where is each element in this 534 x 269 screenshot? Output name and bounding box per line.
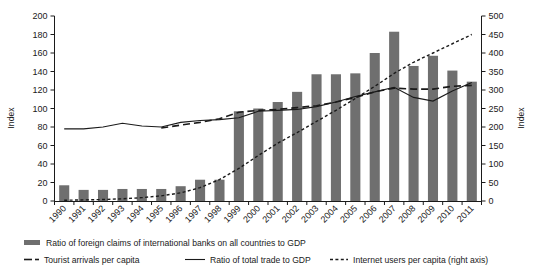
bar [137, 189, 147, 201]
left-axis-title-label: Index [6, 107, 16, 129]
bar [389, 32, 399, 201]
x-axis-year-label: 2001 [260, 203, 281, 224]
x-axis-year-label: 1998 [202, 203, 223, 224]
right-y-tick-label: 50 [489, 178, 499, 188]
bar [176, 186, 186, 201]
x-axis-year-label: 1991 [66, 203, 87, 224]
left-y-tick-label: 200 [32, 11, 47, 21]
x-axis-year-label: 2006 [357, 203, 378, 224]
chart-legend: Ratio of foreign claims of international… [24, 238, 488, 265]
combo-chart: Index Index 020406080100120140160180200 … [0, 0, 534, 269]
left-y-tick-label: 120 [32, 85, 47, 95]
x-axis-year-label: 2009 [416, 203, 437, 224]
legend-item-tourist-arrivals: Tourist arrivals per capita [44, 255, 140, 265]
x-axis-year-label: 2000 [241, 203, 262, 224]
bar-swatch-icon [24, 240, 40, 245]
bar [428, 56, 438, 201]
x-axis-year-label: 1992 [86, 203, 107, 224]
left-axis-title: Index [6, 107, 16, 129]
left-y-tick-label: 100 [32, 104, 47, 114]
x-axis-year-label: 2005 [338, 203, 359, 224]
bar [195, 180, 205, 201]
right-y-tick-label: 100 [489, 159, 504, 169]
left-y-tick-label: 0 [42, 196, 47, 206]
bar [447, 71, 457, 201]
right-y-tick-label: 250 [489, 104, 504, 114]
x-axis-year-label: 2002 [280, 203, 301, 224]
x-axis-year-label: 1993 [105, 203, 126, 224]
right-y-tick-label: 350 [489, 67, 504, 77]
right-y-tick-label: 500 [489, 11, 504, 21]
x-axis-year-label: 1994 [125, 203, 146, 224]
legend-item-total-trade: Ratio of total trade to GDP [210, 255, 311, 265]
bar [370, 53, 380, 201]
left-y-tick-label: 60 [37, 141, 47, 151]
left-y-tick-label: 80 [37, 122, 47, 132]
right-y-axis: 050100150200250300350400450500 [482, 11, 504, 206]
right-axis-title-label: Index [516, 107, 526, 129]
bar [214, 180, 224, 201]
x-axis-year-labels: 1990199119921993199419951996199719981999… [47, 203, 476, 224]
bar [409, 66, 419, 201]
left-y-tick-label: 40 [37, 159, 47, 169]
right-y-tick-label: 0 [489, 196, 494, 206]
bar [331, 74, 341, 201]
x-axis-year-label: 2011 [455, 203, 476, 224]
x-axis-year-label: 1997 [183, 203, 204, 224]
x-axis-year-label: 2008 [396, 203, 417, 224]
chart-container: Index Index 020406080100120140160180200 … [0, 0, 534, 269]
bar [467, 82, 477, 201]
right-y-tick-label: 300 [489, 85, 504, 95]
bar [273, 102, 283, 201]
left-y-axis: 020406080100120140160180200 [32, 11, 54, 206]
bar [311, 74, 321, 201]
left-y-tick-label: 140 [32, 67, 47, 77]
left-y-tick-label: 180 [32, 30, 47, 40]
x-axis-year-label: 2003 [299, 203, 320, 224]
x-axis-year-label: 1995 [144, 203, 165, 224]
x-axis-year-label: 2007 [377, 203, 398, 224]
bar [156, 189, 166, 201]
legend-item-foreign-claims: Ratio of foreign claims of international… [46, 238, 306, 248]
bar [350, 73, 360, 201]
right-y-tick-label: 450 [489, 30, 504, 40]
right-y-tick-label: 400 [489, 48, 504, 58]
left-y-tick-label: 20 [37, 178, 47, 188]
bar [253, 109, 263, 202]
left-y-tick-label: 160 [32, 48, 47, 58]
legend-item-internet-users: Internet users per capita (right axis) [353, 255, 488, 265]
x-axis-year-label: 2010 [435, 203, 456, 224]
bar-series-foreign-claims [59, 32, 477, 201]
x-axis-year-label: 2004 [319, 203, 340, 224]
x-axis-year-label: 1996 [163, 203, 184, 224]
bar [234, 111, 244, 201]
bar [59, 185, 69, 201]
x-axis-year-label: 1999 [222, 203, 243, 224]
right-axis-title: Index [516, 107, 526, 129]
right-y-tick-label: 150 [489, 141, 504, 151]
right-y-tick-label: 200 [489, 122, 504, 132]
x-axis-year-label: 1990 [47, 203, 68, 224]
